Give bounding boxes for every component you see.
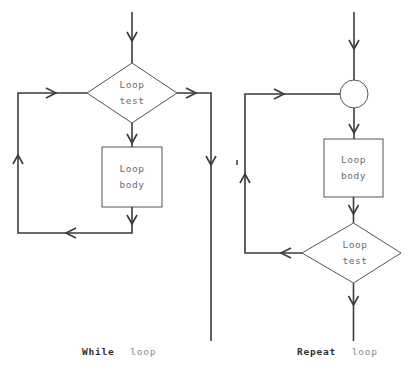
repeat-loop-test-line1: Loop [343,239,368,250]
while-loop-body-line1: Loop [120,163,145,174]
repeat-caption-bold: Repeat [297,346,336,357]
edge-while-entry [127,12,137,63]
flowchart-svg: Loop test Loop body [0,0,414,377]
edge-repeat-test-exit [349,283,359,341]
edge-while-body-feedback [13,88,137,238]
edge-repeat-junction-to-body [349,108,359,139]
while-loop-caption: While loop [82,340,156,359]
edge-repeat-test-feedback [240,89,340,258]
svg-text:Repeat loop: Repeat loop [297,340,378,359]
while-caption-light: loop [130,346,156,357]
repeat-caption-light: loop [352,346,378,357]
repeat-loop-diagram: Loop body Loop test [240,12,401,359]
repeat-junction-node [340,80,368,108]
while-loop-test-line1: Loop [120,79,145,90]
repeat-loop-body-line1: Loop [341,154,366,165]
while-loop-body-node: Loop body [102,147,162,207]
repeat-loop-test-line2: test [343,255,368,266]
edge-repeat-entry [349,12,359,80]
edge-repeat-body-to-test [349,197,359,223]
repeat-loop-test-node: Loop test [302,223,401,283]
scan-artifact-speck [236,160,238,165]
repeat-loop-caption: Repeat loop [297,340,378,359]
while-loop-body-line2: body [120,179,145,190]
edge-while-test-true-to-body [127,123,137,147]
while-loop-diagram: Loop test Loop body [13,12,216,359]
repeat-loop-body-node: Loop body [324,139,383,197]
while-loop-test-node: Loop test [87,63,177,123]
diagram-canvas: Loop test Loop body [0,0,414,377]
repeat-loop-body-line2: body [341,170,366,181]
while-loop-test-line2: test [120,95,145,106]
while-caption-bold: While [82,346,115,357]
edge-while-test-false-exit [177,88,216,341]
svg-text:While loop: While loop [82,340,156,359]
